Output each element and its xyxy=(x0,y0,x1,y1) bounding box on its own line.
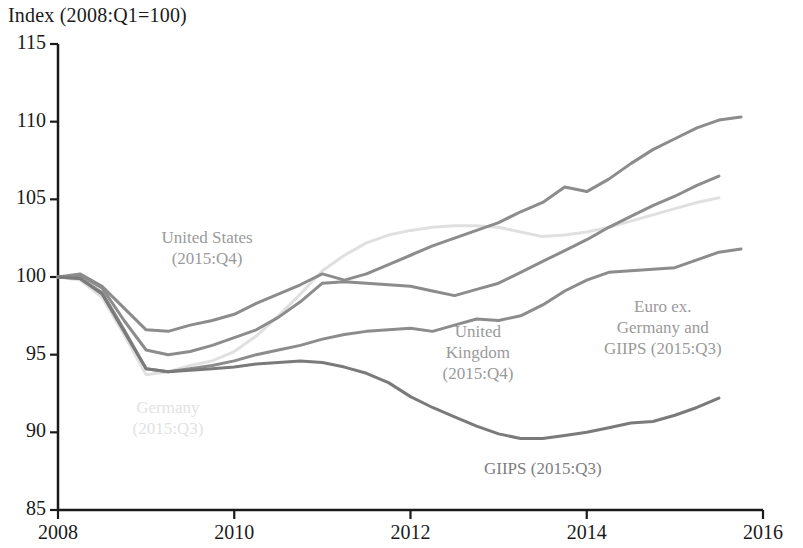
x-axis-tick-label: 2014 xyxy=(552,521,622,544)
y-axis-tick-label: 85 xyxy=(2,497,46,520)
axes xyxy=(58,44,763,510)
y-axis-tick-label: 115 xyxy=(2,31,46,54)
y-axis-tick-label: 105 xyxy=(2,186,46,209)
x-axis-tick-label: 2016 xyxy=(728,521,798,544)
series-annotation-euro-ex-germany-giips: Euro ex. Germany and GIIPS (2015:Q3) xyxy=(604,296,722,359)
x-axis-tick-label: 2008 xyxy=(23,521,93,544)
y-axis-tick-label: 95 xyxy=(2,342,46,365)
y-axis-tick-label: 100 xyxy=(2,264,46,287)
x-axis-tick-label: 2010 xyxy=(199,521,269,544)
chart-container: Index (2008:Q1=100) 85909510010511011520… xyxy=(0,0,803,548)
series-annotation-united-kingdom: United Kingdom (2015:Q4) xyxy=(443,321,514,384)
x-axis-tick-label: 2012 xyxy=(376,521,446,544)
series-annotation-united-states: United States (2015:Q4) xyxy=(162,227,253,269)
y-axis-tick-label: 110 xyxy=(2,109,46,132)
plot-area xyxy=(0,0,803,548)
y-axis-tick-label: 90 xyxy=(2,419,46,442)
series-annotation-giips: GIIPS (2015:Q3) xyxy=(484,458,602,479)
series-annotation-germany: Germany (2015:Q3) xyxy=(133,397,204,439)
